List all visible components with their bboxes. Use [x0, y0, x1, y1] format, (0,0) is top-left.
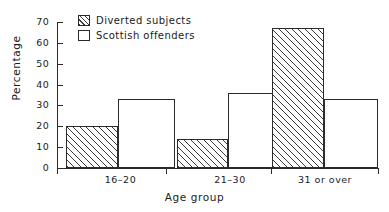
y-tick-label: 40	[23, 80, 49, 90]
y-tick-label: 50	[23, 59, 49, 69]
y-tick-mark	[58, 64, 63, 65]
y-axis-title: Percentage	[10, 8, 22, 128]
legend-item-scottish-offenders: Scottish offenders	[78, 28, 195, 43]
legend: Diverted subjects Scottish offenders	[78, 13, 195, 43]
y-tick-mark	[58, 147, 63, 148]
open-swatch-icon	[78, 30, 90, 41]
y-tick-label: 30	[23, 100, 49, 110]
legend-label: Scottish offenders	[96, 28, 195, 43]
y-tick-label: 70	[23, 17, 49, 27]
bar	[66, 126, 118, 168]
hatched-swatch-icon	[78, 15, 90, 26]
y-tick-mark	[58, 22, 63, 23]
legend-item-diverted-subjects: Diverted subjects	[78, 13, 195, 28]
y-tick-mark	[58, 85, 63, 86]
bar	[118, 99, 175, 168]
bar	[177, 139, 228, 168]
y-tick-label: 0	[23, 163, 49, 173]
y-tick-mark	[58, 126, 63, 127]
legend-label: Diverted subjects	[96, 13, 191, 28]
x-category-label: 31 or over	[250, 174, 389, 185]
x-axis-title: Age group	[0, 191, 389, 203]
bar	[272, 28, 324, 168]
bar-chart: Percentage 010203040506070 16–2021–3031 …	[0, 0, 389, 212]
y-tick-label: 60	[23, 38, 49, 48]
x-axis-line	[57, 168, 379, 169]
y-tick-mark	[58, 105, 63, 106]
y-tick-mark	[58, 43, 63, 44]
y-tick-label: 20	[23, 121, 49, 131]
y-tick-mark	[58, 168, 63, 169]
y-tick-label: 10	[23, 142, 49, 152]
bar	[324, 99, 378, 168]
